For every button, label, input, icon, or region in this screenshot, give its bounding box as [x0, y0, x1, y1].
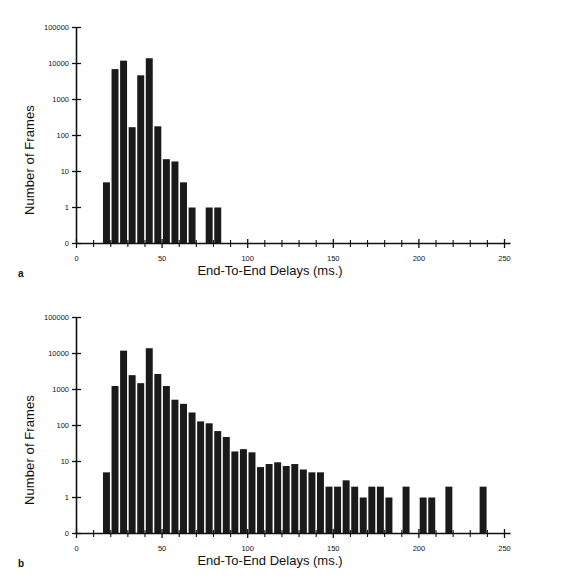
histogram-bar — [428, 498, 435, 534]
histogram-bar — [377, 487, 384, 534]
histogram-bar — [257, 467, 264, 533]
panel-a-plot-area: 0110100100010000100000050100150200250 — [0, 0, 562, 290]
histogram-bar — [214, 208, 221, 244]
histogram-bar — [163, 386, 170, 533]
histogram-bar — [120, 61, 127, 244]
histogram-bar — [206, 423, 213, 533]
x-axis-tick-label: 150 — [327, 544, 340, 553]
histogram-bar — [197, 421, 204, 533]
x-axis-tick-label: 50 — [158, 254, 166, 263]
histogram-bar — [343, 480, 350, 533]
x-axis-tick-label: 200 — [413, 544, 426, 553]
y-axis-tick-label: 10000 — [48, 349, 69, 358]
y-axis-tick-label: 100 — [56, 421, 69, 430]
y-axis-tick-label: 1000 — [52, 385, 69, 394]
y-axis-tick-label: 1000 — [52, 95, 69, 104]
histogram-bar — [189, 208, 196, 244]
histogram-bar — [308, 472, 315, 533]
histogram-bar — [206, 208, 213, 244]
histogram-bar — [326, 487, 333, 534]
histogram-bar — [403, 487, 410, 534]
histogram-bar — [146, 58, 153, 243]
y-axis-tick-label: 10 — [61, 457, 69, 466]
histogram-bar — [300, 469, 307, 533]
histogram-bar — [274, 462, 281, 533]
histogram-bar — [240, 449, 247, 533]
y-axis-tick-label: 10 — [61, 167, 69, 176]
histogram-panel-b: Number of Frames End-To-End Delays (ms.)… — [0, 290, 562, 580]
histogram-bar — [180, 404, 187, 534]
x-axis-tick-label: 0 — [74, 254, 78, 263]
histogram-bar — [137, 75, 144, 243]
histogram-bar — [112, 386, 119, 533]
histogram-bar — [129, 375, 136, 533]
histogram-bar — [334, 487, 341, 534]
histogram-bar — [180, 182, 187, 243]
histogram-bar — [189, 412, 196, 533]
histogram-bar — [368, 487, 375, 534]
histogram-bar — [171, 400, 178, 534]
histogram-bar — [420, 498, 427, 534]
histogram-panel-a: Number of Frames End-To-End Delays (ms.)… — [0, 0, 562, 290]
histogram-bar — [283, 466, 290, 534]
x-axis-tick-label: 50 — [158, 544, 166, 553]
histogram-bar — [137, 383, 144, 533]
histogram-bar — [146, 348, 153, 533]
histogram-bar — [351, 487, 358, 534]
y-axis-tick-label: 100 — [56, 131, 69, 140]
histogram-bar — [154, 126, 161, 243]
histogram-bar — [154, 374, 161, 534]
x-axis-tick-label: 0 — [74, 544, 78, 553]
histogram-bar — [103, 182, 110, 243]
histogram-bar — [385, 498, 392, 534]
panel-b-plot-area: 0110100100010000100000050100150200250 — [0, 290, 562, 580]
histogram-bar — [214, 431, 221, 533]
y-axis-tick-label: 100000 — [44, 23, 69, 32]
x-axis-tick-label: 150 — [327, 254, 340, 263]
histogram-bar — [266, 464, 273, 533]
y-axis-tick-label: 0 — [65, 239, 69, 248]
histogram-bar — [231, 451, 238, 533]
histogram-bar — [129, 127, 136, 243]
histogram-bar — [317, 472, 324, 533]
histogram-bar — [480, 487, 487, 534]
chart-geometry: 0110100100010000100000050100150200250 — [44, 313, 511, 552]
histogram-bar — [223, 437, 230, 534]
histogram-bar — [163, 159, 170, 243]
x-axis-tick-label: 250 — [498, 544, 511, 553]
histogram-bar — [120, 351, 127, 534]
histogram-bar — [360, 498, 367, 534]
x-axis-tick-label: 250 — [498, 254, 511, 263]
x-axis-tick-label: 200 — [413, 254, 426, 263]
chart-geometry: 0110100100010000100000050100150200250 — [44, 23, 511, 262]
y-axis-tick-label: 0 — [65, 529, 69, 538]
x-axis-tick-label: 100 — [241, 544, 254, 553]
y-axis-tick-label: 100000 — [44, 313, 69, 322]
y-axis-tick-label: 1 — [65, 493, 69, 502]
histogram-bar — [249, 452, 256, 533]
y-axis-tick-label: 1 — [65, 203, 69, 212]
histogram-bar — [171, 161, 178, 243]
x-axis-tick-label: 100 — [241, 254, 254, 263]
y-axis-tick-label: 10000 — [48, 59, 69, 68]
histogram-bar — [291, 464, 298, 533]
histogram-bar — [445, 487, 452, 534]
histogram-bar — [103, 472, 110, 533]
histogram-bar — [112, 69, 119, 243]
